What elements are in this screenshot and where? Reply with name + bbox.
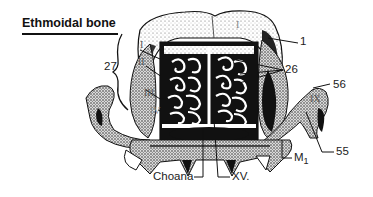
figure-title: Ethmoidal bone	[22, 16, 116, 30]
roman-i-left: I	[140, 40, 143, 50]
roman-ii: II	[138, 57, 145, 67]
roman-iv: IV	[150, 106, 161, 116]
roman-ix: IX	[310, 94, 321, 104]
label-56: 56	[333, 79, 346, 91]
label-55: 55	[336, 146, 349, 158]
label-m1-main: M	[294, 151, 304, 163]
label-m1: M1	[294, 152, 309, 166]
roman-i-top: I	[236, 20, 239, 30]
title-underline	[22, 33, 118, 35]
label-27: 27	[104, 61, 117, 73]
label-26: 26	[285, 64, 298, 76]
label-xv: XV.	[232, 171, 249, 183]
label-1: 1	[300, 36, 306, 48]
roman-iii: III	[144, 88, 154, 98]
ethmoidal-bone-diagram: Ethmoidal bone 1 26 27 56 55 Choana XV. …	[0, 0, 373, 197]
label-m1-sub: 1	[304, 156, 309, 166]
label-choana: Choana	[153, 171, 193, 183]
